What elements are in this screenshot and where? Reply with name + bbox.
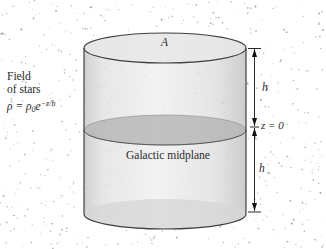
scale-height-upper-label: h	[262, 81, 268, 94]
z-equals-zero-label: z = 0	[261, 119, 284, 132]
lower-h-arrow-down-icon	[252, 203, 257, 211]
dimension-annotations	[248, 49, 261, 213]
galactic-midplane-label: Galactic midplane	[126, 149, 210, 162]
galactic-disk-figure: Field of stars ρ = ρ0e−z/h A Galactic mi…	[0, 0, 326, 249]
formula-lhs: ρ = ρ	[7, 100, 32, 112]
field-of-stars-line2: of stars	[7, 83, 41, 96]
top-area-label: A	[161, 36, 168, 49]
scale-height-lower-label: h	[259, 162, 265, 175]
density-formula: ρ = ρ0e−z/h	[7, 97, 55, 116]
field-of-stars-label: Field of stars	[7, 70, 41, 96]
lower-h-arrow-up-icon	[252, 128, 257, 136]
field-of-stars-line1: Field	[7, 70, 41, 83]
upper-h-arrow-up-icon	[252, 49, 257, 57]
formula-exponent: −z/h	[41, 99, 56, 108]
upper-h-arrow-down-icon	[252, 118, 257, 126]
